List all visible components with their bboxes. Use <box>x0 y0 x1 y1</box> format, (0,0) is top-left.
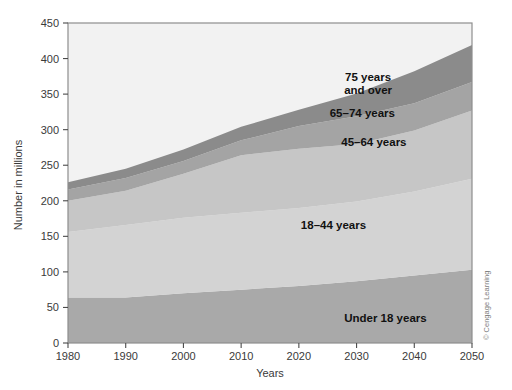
x-tick-label: 2040 <box>402 350 426 362</box>
series-label: 45–64 years <box>341 136 406 148</box>
y-tick-label: 250 <box>41 159 59 171</box>
copyright-credit: © Cengage Learning <box>482 271 491 340</box>
x-axis-title: Years <box>256 367 284 379</box>
y-tick-label: 400 <box>41 53 59 65</box>
y-tick-label: 350 <box>41 88 59 100</box>
chart-canvas: 050100150200250300350400450 198019902000… <box>0 0 512 390</box>
y-tick-label: 150 <box>41 230 59 242</box>
x-tick-label: 2030 <box>344 350 368 362</box>
y-axis-ticks: 050100150200250300350400450 <box>41 17 68 349</box>
stacked-area-chart: 050100150200250300350400450 198019902000… <box>0 0 512 390</box>
x-tick-label: 2050 <box>460 350 484 362</box>
series-label: 75 yearsand over <box>344 71 392 96</box>
x-tick-label: 2000 <box>171 350 195 362</box>
y-tick-label: 200 <box>41 195 59 207</box>
y-tick-label: 300 <box>41 124 59 136</box>
x-axis-ticks: 19801990200020102020203020402050 <box>56 343 484 362</box>
series-label: Under 18 years <box>344 312 426 324</box>
y-axis-title: Number in millions <box>12 139 24 230</box>
y-tick-label: 100 <box>41 266 59 278</box>
series-label: 18–44 years <box>301 219 366 231</box>
series-label: 65–74 years <box>330 107 395 119</box>
x-tick-label: 1980 <box>56 350 80 362</box>
x-tick-label: 1990 <box>113 350 137 362</box>
y-tick-label: 0 <box>53 337 59 349</box>
x-tick-label: 2010 <box>229 350 253 362</box>
y-tick-label: 450 <box>41 17 59 29</box>
y-tick-label: 50 <box>47 301 59 313</box>
x-tick-label: 2020 <box>287 350 311 362</box>
